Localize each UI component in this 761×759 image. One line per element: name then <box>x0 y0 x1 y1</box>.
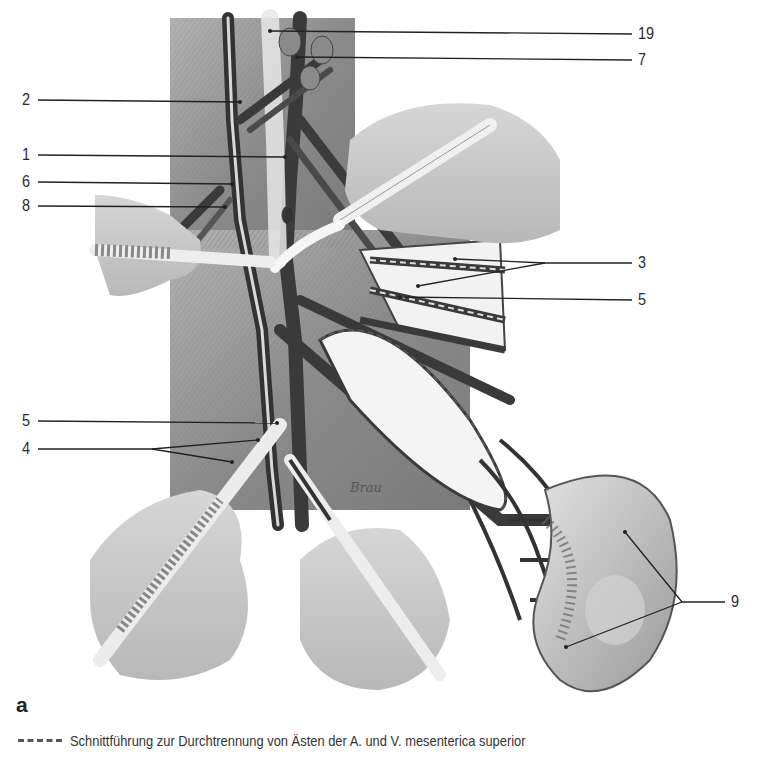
small-bowel <box>533 475 676 691</box>
label-1: 1 <box>22 146 30 164</box>
label-5-lower: 5 <box>22 412 30 430</box>
label-3: 3 <box>638 254 646 272</box>
dashed-line-icon <box>18 739 62 742</box>
artist-signature: Brau <box>349 480 382 495</box>
surgical-illustration: Brau <box>0 0 761 759</box>
label-7: 7 <box>638 51 646 69</box>
label-4: 4 <box>22 440 30 458</box>
label-19: 19 <box>638 25 654 43</box>
label-2: 2 <box>22 91 30 109</box>
legend: Schnittführung zur Durchtrennung von Äst… <box>18 732 600 749</box>
label-5-upper: 5 <box>638 291 646 309</box>
legend-text: Schnittführung zur Durchtrennung von Äst… <box>70 732 526 749</box>
label-9: 9 <box>731 593 739 611</box>
panel-letter: a <box>16 693 28 717</box>
label-8: 8 <box>22 197 30 215</box>
label-6: 6 <box>22 173 30 191</box>
